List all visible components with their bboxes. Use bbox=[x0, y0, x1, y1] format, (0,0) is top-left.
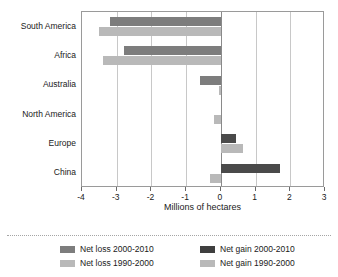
bar-group bbox=[82, 41, 323, 70]
bar bbox=[200, 76, 221, 85]
bar bbox=[221, 164, 280, 173]
bar bbox=[110, 17, 221, 26]
y-axis-label: Australia bbox=[0, 79, 76, 89]
x-tick bbox=[185, 187, 186, 191]
y-axis-label: North America bbox=[0, 109, 76, 119]
bar bbox=[221, 144, 244, 153]
legend-separator bbox=[7, 235, 331, 236]
x-tick-label: -1 bbox=[172, 192, 198, 202]
x-tick-label: 0 bbox=[207, 192, 233, 202]
bar bbox=[214, 115, 221, 124]
bar-group bbox=[82, 71, 323, 100]
legend-label-net-loss-1990-2000: Net loss 1990-2000 bbox=[80, 258, 154, 268]
x-tick bbox=[116, 187, 117, 191]
bar bbox=[124, 46, 221, 55]
x-tick-label: -2 bbox=[137, 192, 163, 202]
x-tick bbox=[324, 187, 325, 191]
chart-legend: Net loss 2000-2010 Net loss 1990-2000 Ne… bbox=[0, 243, 338, 273]
bar bbox=[219, 86, 221, 95]
y-axis-category-labels: South AmericaAfricaAustraliaNorth Americ… bbox=[0, 11, 76, 187]
bar bbox=[103, 56, 221, 65]
x-tick-label: 3 bbox=[311, 192, 337, 202]
legend-item-net-loss-2000-2010: Net loss 2000-2010 bbox=[60, 243, 154, 255]
y-axis-label: Europe bbox=[0, 138, 76, 148]
legend-item-net-gain-1990-2000: Net gain 1990-2000 bbox=[200, 257, 295, 269]
x-axis-title: Millions of hectares bbox=[81, 202, 324, 212]
legend-swatch-net-gain-1990-2000 bbox=[200, 260, 215, 267]
legend-label-net-gain-1990-2000: Net gain 1990-2000 bbox=[220, 258, 295, 268]
legend-swatch-net-gain-2000-2010 bbox=[200, 246, 215, 253]
x-tick-label: -4 bbox=[68, 192, 94, 202]
plot-area bbox=[81, 11, 324, 187]
x-tick bbox=[289, 187, 290, 191]
bar-group bbox=[82, 159, 323, 188]
x-tick-label: 2 bbox=[276, 192, 302, 202]
legend-swatch-net-loss-2000-2010 bbox=[60, 246, 75, 253]
forest-area-change-bar-chart: South AmericaAfricaAustraliaNorth Americ… bbox=[0, 0, 338, 277]
bar bbox=[99, 27, 221, 36]
x-tick bbox=[81, 187, 82, 191]
y-axis-label: Africa bbox=[0, 50, 76, 60]
y-axis-label: China bbox=[0, 167, 76, 177]
legend-item-net-gain-2000-2010: Net gain 2000-2010 bbox=[200, 243, 295, 255]
legend-swatch-net-loss-1990-2000 bbox=[60, 260, 75, 267]
bar bbox=[210, 174, 220, 183]
x-tick-label: 1 bbox=[242, 192, 268, 202]
bar-group bbox=[82, 100, 323, 129]
legend-label-net-loss-2000-2010: Net loss 2000-2010 bbox=[80, 244, 154, 254]
x-tick bbox=[255, 187, 256, 191]
bar-group bbox=[82, 12, 323, 41]
x-tick-label: -3 bbox=[103, 192, 129, 202]
bar bbox=[221, 134, 237, 143]
legend-item-net-loss-1990-2000: Net loss 1990-2000 bbox=[60, 257, 154, 269]
bar-group bbox=[82, 129, 323, 158]
y-axis-label: South America bbox=[0, 21, 76, 31]
x-tick bbox=[150, 187, 151, 191]
x-tick bbox=[220, 187, 221, 191]
legend-label-net-gain-2000-2010: Net gain 2000-2010 bbox=[220, 244, 295, 254]
